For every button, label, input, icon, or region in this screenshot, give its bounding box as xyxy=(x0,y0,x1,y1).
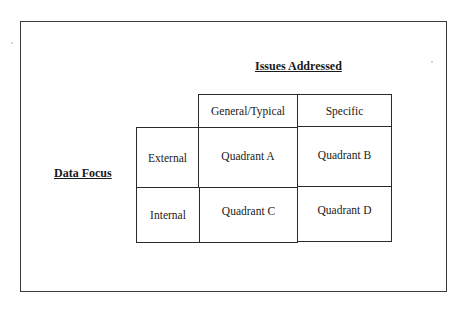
scan-speck xyxy=(431,61,433,63)
row-label-external: External xyxy=(136,127,199,188)
quadrant-d-cell: Quadrant D xyxy=(297,186,392,242)
column-header-specific: Specific xyxy=(297,94,392,127)
quadrant-b-cell: Quadrant B xyxy=(297,126,392,187)
row-axis-title: Data Focus xyxy=(54,166,112,181)
quadrant-a-cell: Quadrant A xyxy=(198,127,298,188)
column-header-general-typical: General/Typical xyxy=(198,94,298,128)
scan-speck xyxy=(11,42,13,44)
quadrant-c-cell: Quadrant C xyxy=(199,187,298,243)
row-label-internal: Internal xyxy=(136,187,200,243)
column-axis-title: Issues Addressed xyxy=(255,59,342,74)
